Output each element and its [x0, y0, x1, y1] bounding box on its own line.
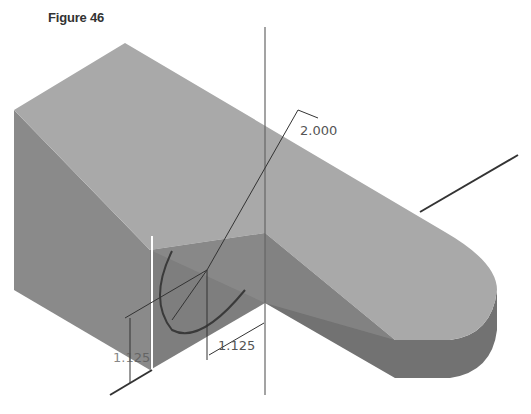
axis-line-right: [420, 155, 518, 212]
isometric-part-diagram: 2.000 1.125 1.125: [0, 0, 531, 414]
horizontal-dimension-label: 1.125: [218, 338, 255, 353]
radius-dimension-label: 2.000: [300, 123, 337, 138]
baseline-segment: [110, 370, 152, 395]
vertical-dimension-label: 1.125: [113, 350, 150, 365]
